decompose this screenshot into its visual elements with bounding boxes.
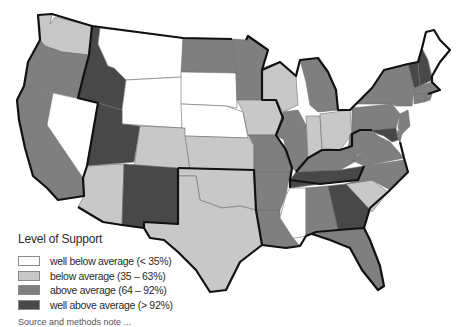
state-SD [181,72,237,108]
legend-label: above average (64 – 92%) [50,284,167,296]
legend-label: well below average (< 35%) [50,255,171,267]
legend-item-well-below: well below average (< 35%) [18,254,173,269]
state-NE [181,104,248,138]
state-CO [134,126,190,170]
legend-title: Level of Support [18,232,173,246]
state-CT [414,94,426,104]
legend: Level of Support well below average (< 3… [18,232,173,312]
state-MI [300,58,338,112]
legend-label: well above average (> 92%) [50,299,173,311]
state-PA [352,104,400,132]
footnote-cutoff: Source and methods note ... [18,317,131,327]
legend-item-above: above average (64 – 92%) [18,283,173,298]
state-ND [181,38,236,73]
legend-swatch [18,285,40,295]
state-KS [185,136,254,170]
legend-item-well-above: well above average (> 92%) [18,298,173,313]
state-WY [122,77,183,128]
legend-swatch [18,300,40,310]
state-NM [122,164,178,228]
legend-item-below: below average (35 – 63%) [18,269,173,284]
legend-label: below average (35 – 63%) [50,270,165,282]
legend-swatch [18,256,40,266]
state-OH [320,110,352,150]
legend-swatch [18,271,40,281]
